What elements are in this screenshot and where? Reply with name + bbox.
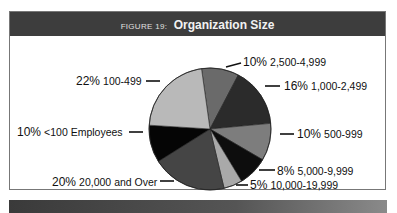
slice-label-2500-4999: 10% 2,500-4,999 [243, 56, 326, 68]
slice-label-100-499: 22% 100-499 [76, 75, 142, 87]
slice-label-1000-2499: 16% 1,000-2,499 [284, 80, 367, 92]
slice-label-20000-over: 20% 20,000 and Over [52, 176, 157, 188]
pie-slice [149, 69, 210, 129]
slice-label-under-100: 10% <100 Employees [17, 126, 123, 138]
slice-label-10000-19999: 5% 10,000-19,999 [250, 179, 338, 191]
slice-label-500-999: 10% 500-999 [297, 128, 363, 140]
bottom-divider-bar [9, 200, 387, 213]
leader-line-2500 [226, 63, 241, 67]
slice-label-5000-9999: 8% 5,000-9,999 [277, 165, 353, 177]
